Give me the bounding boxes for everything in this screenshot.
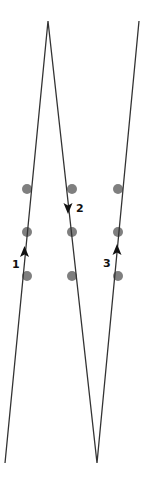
dot-7 — [113, 184, 123, 194]
zigzag-path — [5, 21, 139, 463]
dot-4 — [67, 184, 77, 194]
arrow-label-2: 2 — [76, 202, 84, 215]
arrow-up-icon — [20, 246, 29, 257]
dot-1 — [22, 184, 32, 194]
arrow-label-1: 1 — [12, 258, 20, 271]
arrow-label-3: 3 — [103, 257, 111, 270]
zigzag-diagram: 123 — [0, 0, 142, 480]
